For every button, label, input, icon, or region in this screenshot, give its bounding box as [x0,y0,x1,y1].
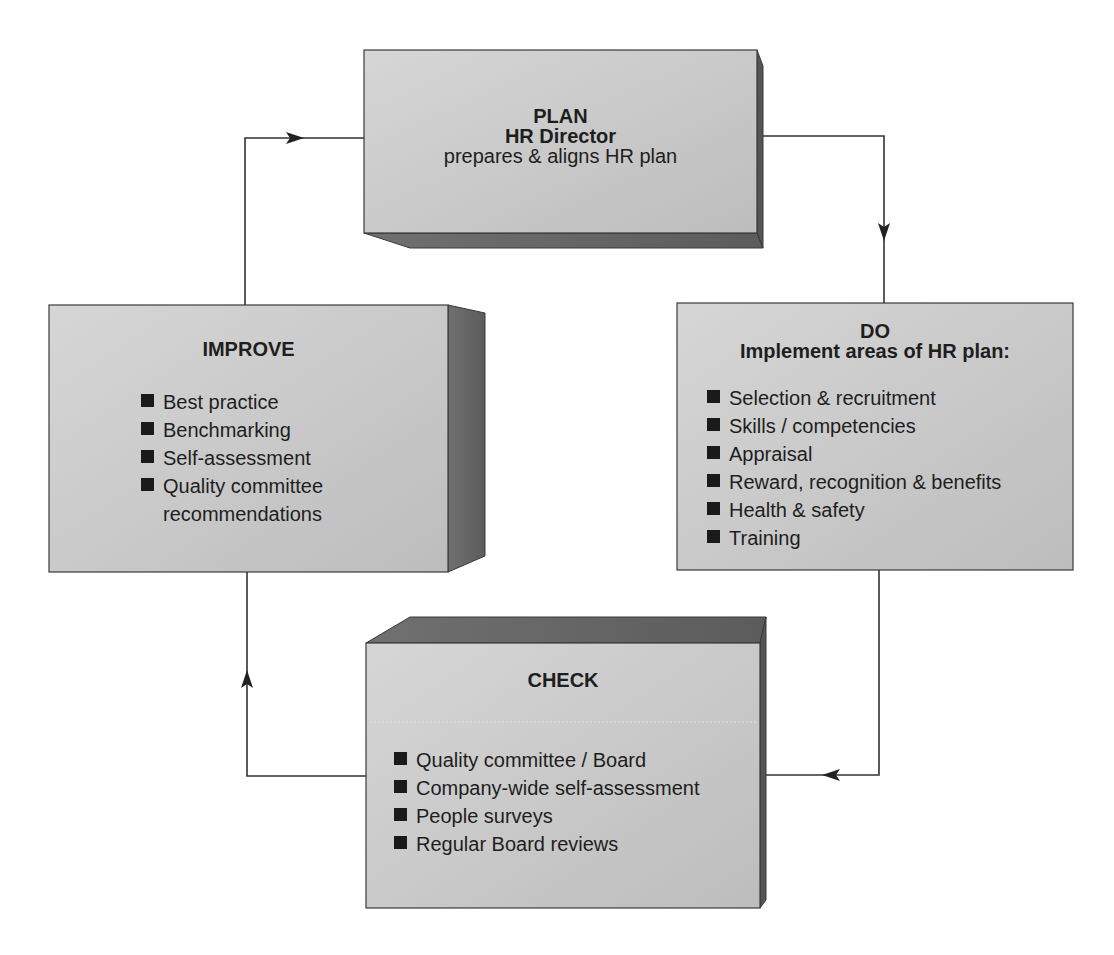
list-item: Company-wide self-assessment [394,774,699,802]
bullet-square-icon [707,530,720,543]
list-item: Best practice [141,388,323,416]
bullet-square-icon [141,394,154,407]
check-title: CHECK [366,670,760,690]
plan-box: PLAN HR Director prepares & aligns HR pl… [364,106,757,166]
improve-box-side-extrusion [448,305,485,572]
list-item: Training [707,524,1001,552]
list-item: Quality committee / Board [394,746,699,774]
connector-do-to-check [766,570,879,775]
list-item: Quality committeerecommendations [141,472,323,528]
bullet-square-icon [707,502,720,515]
bullet-square-icon [394,752,407,765]
bullet-square-icon [707,474,720,487]
bullet-square-icon [141,478,154,491]
plan-box-bottom-extrusion [364,233,763,248]
list-item: Regular Board reviews [394,830,699,858]
bullet-square-icon [394,808,407,821]
check-list: Quality committee / Board Company-wide s… [394,746,699,858]
plan-title: PLAN [364,106,757,126]
plan-description: prepares & aligns HR plan [364,146,757,166]
connector-improve-to-plan [245,138,364,305]
list-item: Benchmarking [141,416,323,444]
bullet-square-icon [394,836,407,849]
list-item: Self-assessment [141,444,323,472]
do-subtitle: Implement areas of HR plan: [677,341,1073,361]
improve-box: IMPROVE Best practice Benchmarking Self-… [49,305,448,572]
do-list: Selection & recruitment Skills / compete… [707,384,1001,552]
plan-box-side-extrusion [757,50,763,248]
bullet-square-icon [707,418,720,431]
list-item: Selection & recruitment [707,384,1001,412]
improve-title: IMPROVE [49,339,448,359]
connector-plan-to-do [763,136,884,303]
check-box: CHECK Quality committee / Board Company-… [366,643,760,908]
list-item: Reward, recognition & benefits [707,468,1001,496]
list-item: People surveys [394,802,699,830]
check-box-side-extrusion [760,617,766,908]
pdca-diagram: PLAN HR Director prepares & aligns HR pl… [0,0,1114,955]
bullet-square-icon [141,422,154,435]
list-item: Skills / competencies [707,412,1001,440]
do-box: DO Implement areas of HR plan: Selection… [677,303,1073,570]
do-title: DO [677,321,1073,341]
list-item: Appraisal [707,440,1001,468]
bullet-square-icon [394,780,407,793]
plan-subtitle: HR Director [364,126,757,146]
check-box-top-extrusion [366,617,766,643]
list-item: Health & safety [707,496,1001,524]
bullet-square-icon [141,450,154,463]
bullet-square-icon [707,390,720,403]
connector-check-to-improve [247,572,366,776]
bullet-square-icon [707,446,720,459]
improve-list: Best practice Benchmarking Self-assessme… [141,388,323,528]
